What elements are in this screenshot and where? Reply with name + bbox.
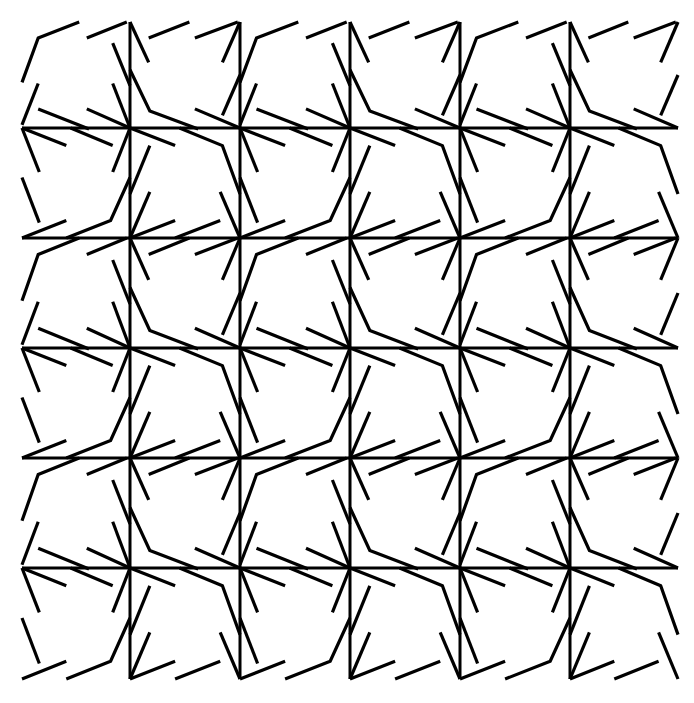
- motif-segment: [415, 328, 460, 348]
- motif-segment: [442, 513, 460, 555]
- motif-segment: [350, 458, 369, 500]
- grid-cell-b: [570, 238, 678, 349]
- motif-segment: [175, 661, 220, 679]
- motif-segment: [71, 568, 113, 586]
- motif-segment: [22, 398, 39, 443]
- motif-segment: [415, 22, 458, 38]
- motif-segment: [415, 238, 458, 255]
- grid-cell-d: [22, 568, 130, 679]
- motif-segment: [130, 128, 175, 146]
- motif-segment: [195, 238, 238, 255]
- motif-segment: [614, 220, 658, 238]
- motif-segment: [66, 618, 130, 679]
- motif-segment: [400, 348, 461, 414]
- motif-segment: [285, 178, 350, 239]
- grid-cell-a: [240, 458, 350, 569]
- motif-segment: [460, 84, 477, 125]
- motif-segment: [180, 348, 241, 414]
- pattern-svg: [0, 0, 694, 703]
- motif-segment: [113, 568, 130, 612]
- motif-segment: [87, 238, 127, 255]
- motif-segment: [22, 220, 66, 238]
- motif-segment: [440, 192, 460, 238]
- grid-cell-c: [570, 128, 678, 238]
- motif-segment: [87, 22, 127, 38]
- motif-segment: [257, 548, 309, 569]
- motif-segment: [442, 293, 460, 335]
- motif-segment: [130, 238, 149, 280]
- grid-cell-d: [240, 128, 350, 238]
- motif-segment: [659, 412, 678, 458]
- motif-segment: [570, 146, 589, 194]
- motif-segment: [113, 260, 130, 304]
- motif-segment: [195, 328, 240, 348]
- motif-segment: [460, 618, 478, 664]
- motif-segment: [38, 109, 89, 129]
- motif-segment: [369, 22, 410, 38]
- motif-segment: [350, 22, 369, 62]
- motif-segment: [22, 22, 79, 82]
- grid-cell-d: [240, 348, 350, 458]
- motif-segment: [588, 22, 628, 38]
- motif-segment: [22, 302, 38, 345]
- motif-segment: [510, 568, 553, 586]
- grid-cell-a: [460, 238, 570, 349]
- motif-segment: [240, 220, 285, 238]
- motif-segment: [369, 238, 410, 255]
- motif-segment: [634, 22, 676, 38]
- motif-segment: [350, 508, 418, 570]
- grid-cell-a: [22, 458, 130, 569]
- motif-segment: [22, 661, 66, 679]
- motif-segment: [588, 238, 628, 255]
- motif-segment: [195, 548, 240, 568]
- motif-segment: [460, 440, 505, 458]
- motif-segment: [332, 43, 350, 85]
- motif-segment: [570, 458, 588, 500]
- motif-segment: [222, 75, 240, 115]
- motif-segment: [290, 568, 333, 586]
- motif-segment: [22, 238, 79, 301]
- motif-segment: [285, 398, 350, 459]
- motif-segment: [350, 586, 370, 635]
- motif-segment: [240, 440, 285, 458]
- motif-segment: [634, 109, 678, 128]
- motif-segment: [460, 178, 478, 223]
- motif-segment: [240, 458, 298, 521]
- motif-segment: [66, 178, 130, 239]
- motif-segment: [440, 412, 460, 458]
- motif-segment: [552, 128, 570, 172]
- motif-segment: [306, 458, 347, 475]
- grid-cell-b: [570, 22, 678, 129]
- motif-segment: [195, 458, 238, 475]
- motif-segment: [350, 70, 418, 129]
- motif-segment: [477, 109, 529, 129]
- motif-segment: [149, 238, 190, 255]
- motif-segment: [395, 440, 440, 458]
- motif-segment: [290, 348, 333, 366]
- motif-segment: [552, 348, 570, 392]
- grid-cell-a: [240, 22, 350, 129]
- grid-cell-d: [460, 348, 570, 458]
- grid-cell-a: [240, 238, 350, 349]
- motif-segment: [113, 480, 130, 524]
- grid-cell-d: [240, 568, 350, 679]
- motif-segment: [257, 109, 309, 129]
- motif-segment: [240, 22, 298, 82]
- motif-segment: [570, 238, 588, 280]
- motif-segment: [552, 480, 570, 524]
- grid-cell-b: [130, 458, 240, 569]
- grid-cell-c: [350, 128, 460, 238]
- motif-segment: [332, 480, 350, 524]
- motif-segment: [619, 348, 678, 414]
- motif-segment: [526, 458, 567, 475]
- motif-segment: [350, 568, 395, 586]
- motif-segment: [240, 302, 257, 345]
- grid-cell-b: [350, 22, 460, 129]
- grid-cell-c: [350, 568, 460, 679]
- motif-segment: [240, 522, 257, 565]
- grid-cell-a: [460, 458, 570, 569]
- motif-segment: [222, 293, 240, 335]
- motif-segment: [130, 586, 150, 635]
- motif-segment: [442, 75, 460, 115]
- motif-segment: [175, 220, 220, 238]
